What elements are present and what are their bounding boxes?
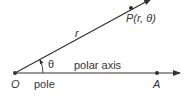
polar-diagram: P(r, θ) r θ polar axis O pole A: [0, 0, 188, 99]
point-a: [155, 71, 159, 75]
pole-point: [13, 71, 17, 75]
origin-label: O: [11, 78, 20, 90]
point-p: [129, 6, 133, 10]
radius-label: r: [75, 27, 80, 39]
pole-label: pole: [34, 78, 55, 90]
point-p-label: P(r, θ): [126, 12, 156, 24]
point-a-label: A: [152, 78, 160, 90]
angle-label: θ: [48, 58, 54, 70]
polar-axis-label: polar axis: [74, 59, 122, 71]
angle-arc-icon: [40, 60, 43, 73]
